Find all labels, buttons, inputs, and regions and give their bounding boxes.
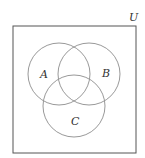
set-a-label: A <box>39 68 48 81</box>
venn-diagram: U A B C <box>0 0 145 158</box>
set-b-circle <box>58 43 120 105</box>
set-b-label: B <box>101 67 110 80</box>
universe-label: U <box>129 11 139 24</box>
set-a-circle <box>28 43 90 105</box>
universe-box <box>13 26 136 153</box>
set-c-label: C <box>71 115 80 128</box>
